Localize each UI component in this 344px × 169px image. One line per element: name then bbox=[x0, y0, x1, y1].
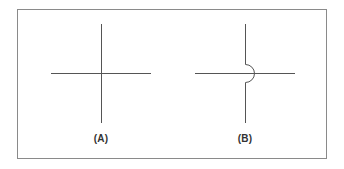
panel-a-label: (A) bbox=[94, 133, 108, 144]
wire-crossing-diagram bbox=[0, 0, 344, 169]
panel-b-label: (B) bbox=[238, 133, 252, 144]
panel-a-crossing bbox=[51, 24, 151, 123]
panel-b-hop-over bbox=[195, 24, 295, 123]
